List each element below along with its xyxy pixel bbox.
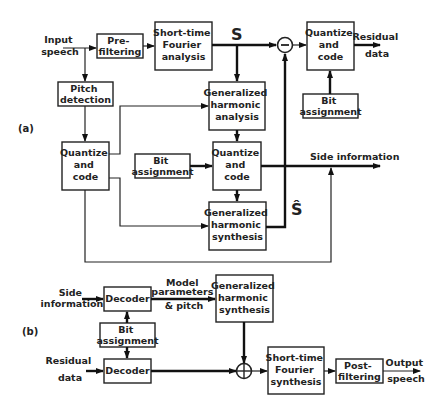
pitch-detection-block: Pitch detection bbox=[58, 82, 113, 106]
arrow-s-hat-to-subtractor bbox=[266, 54, 285, 227]
quantize-pitch-block: Quantize and code bbox=[60, 142, 111, 190]
part-a-label: (a) bbox=[18, 123, 34, 134]
gh-analysis-block: Generalized harmonic analysis bbox=[203, 82, 270, 130]
bit-assignment-residual-block: Bit assignment bbox=[299, 94, 362, 118]
bit-assignment-block-b: Bit assignment bbox=[96, 323, 159, 347]
residual-data-in-label: Residual data bbox=[45, 355, 94, 383]
gh-synthesis-block-a: Generalized harmonic synthesis bbox=[204, 202, 271, 250]
prefilter-block: Pre- filtering bbox=[97, 34, 143, 58]
decoder-top-block: Decoder bbox=[104, 287, 151, 311]
bit-assignment-model-block: Bit assignment bbox=[131, 154, 194, 178]
svg-text:Post- filtering: Post- filtering bbox=[338, 360, 381, 382]
gh-synthesis-block-b: Generalized harmonic synthesis bbox=[211, 275, 278, 322]
stft-synthesis-block: Short-time Fourier synthesis bbox=[266, 347, 327, 394]
input-speech-label: Input speech bbox=[41, 34, 79, 57]
svg-text:Decoder: Decoder bbox=[105, 293, 150, 304]
signal-s-label: S bbox=[231, 25, 243, 44]
stft-analysis-block: Short-time Fourier analysis bbox=[153, 22, 214, 70]
svg-text:Generalized harmonic: Generalized harmonic synthesis bbox=[211, 280, 278, 315]
part-b-label: (b) bbox=[22, 326, 38, 337]
quantize-residual-block: Quantize and code bbox=[305, 22, 356, 70]
svg-text:Generalized harmonic: Generalized harmonic synthesis bbox=[204, 207, 271, 242]
block-diagram: (a) Input speech Pre- filtering Short-ti… bbox=[0, 0, 439, 417]
decoder-bottom-block: Decoder bbox=[104, 359, 151, 383]
postfilter-block: Post- filtering bbox=[336, 359, 383, 383]
subtractor-node bbox=[278, 38, 293, 53]
adder-node bbox=[237, 364, 252, 379]
model-parameters-label: Model parameters & pitch bbox=[151, 277, 216, 311]
side-information-label: Side information bbox=[310, 151, 400, 162]
arrow-pitch-to-gh-analysis bbox=[109, 106, 208, 154]
quantize-model-block: Quantize and code bbox=[211, 142, 262, 190]
svg-text:Decoder: Decoder bbox=[105, 365, 150, 376]
arrow-pitch-to-gh-synthesis bbox=[109, 178, 208, 226]
signal-s-hat-label: Ŝ bbox=[291, 200, 303, 219]
